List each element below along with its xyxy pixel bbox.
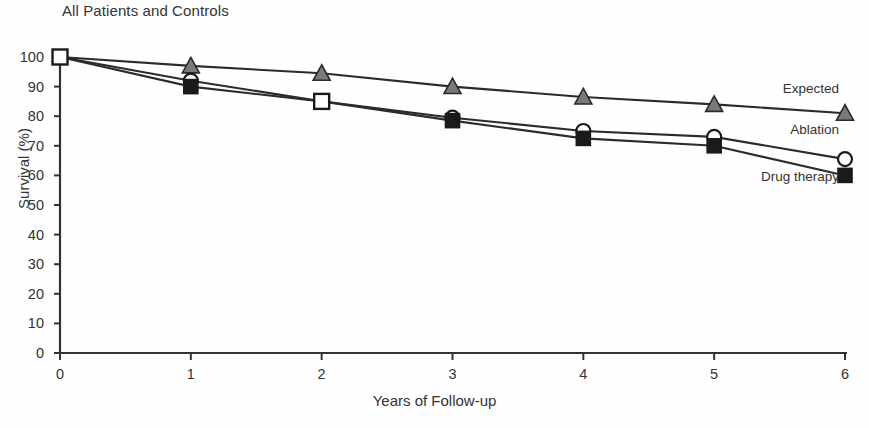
plot-area — [0, 0, 869, 428]
markers-origin — [53, 50, 68, 65]
marker-square-open — [314, 94, 329, 109]
marker-square-open — [53, 50, 68, 65]
marker-circle — [838, 152, 852, 166]
survival-chart: All Patients and Controls Survival (%) Y… — [0, 0, 869, 428]
marker-square — [446, 114, 460, 128]
series-line — [60, 57, 845, 159]
marker-square — [838, 168, 852, 182]
series-ablation — [60, 57, 845, 159]
series-lines — [53, 50, 854, 183]
markers-year2-overlap — [314, 94, 329, 109]
series-label-expected: Expected — [783, 81, 839, 96]
series-label-ablation: Ablation — [790, 122, 839, 137]
markers-ablation — [184, 74, 852, 166]
marker-square — [184, 80, 198, 94]
marker-square — [576, 131, 590, 145]
marker-square — [707, 139, 721, 153]
markers-expected — [182, 57, 853, 120]
axes — [54, 55, 847, 360]
series-label-drug-therapy: Drug therapy — [761, 169, 839, 184]
